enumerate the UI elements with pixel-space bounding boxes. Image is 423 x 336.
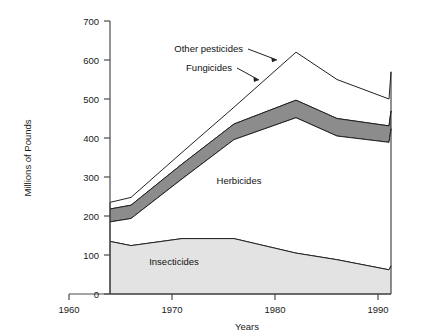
annotation-label-other-pesticides: Other pesticides xyxy=(174,43,243,54)
series-label-insecticides: Insecticides xyxy=(149,256,199,267)
y-tick-label: 500 xyxy=(83,94,99,105)
x-tick-label: 1960 xyxy=(58,304,79,315)
y-axis-tick-labels: 700 600 500 400 300 200 100 0 xyxy=(83,16,99,300)
series-label-herbicides: Herbicides xyxy=(217,175,262,186)
y-axis-title: Millions of Pounds xyxy=(22,119,33,196)
x-tick-label: 1990 xyxy=(367,304,388,315)
y-tick-label: 0 xyxy=(94,289,99,300)
annotation-label-fungicides: Fungicides xyxy=(186,62,232,73)
pesticide-use-area-chart: 700 600 500 400 300 200 100 0 1960 1970 … xyxy=(0,0,423,336)
x-axis-tick-labels: 1960 1970 1980 1990 xyxy=(58,304,388,315)
y-tick-label: 300 xyxy=(83,172,99,183)
y-tick-label: 400 xyxy=(83,133,99,144)
x-axis-ticks xyxy=(69,294,378,300)
x-tick-label: 1970 xyxy=(161,304,182,315)
y-tick-label: 600 xyxy=(83,55,99,66)
y-tick-label: 200 xyxy=(83,211,99,222)
x-axis-title: Years xyxy=(235,321,259,332)
y-tick-label: 100 xyxy=(83,250,99,261)
y-axis-ticks xyxy=(104,21,110,294)
x-tick-label: 1980 xyxy=(264,304,285,315)
chart-svg: 700 600 500 400 300 200 100 0 1960 1970 … xyxy=(0,0,423,336)
y-tick-label: 700 xyxy=(83,16,99,27)
